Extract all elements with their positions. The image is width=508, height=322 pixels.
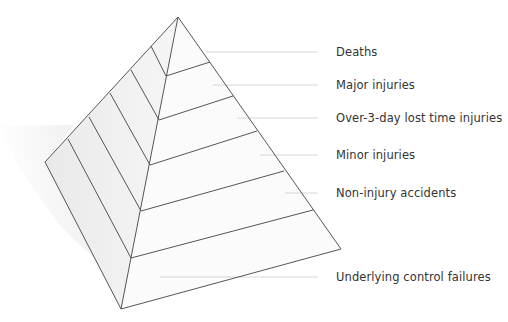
label-non-injury-accidents: Non-injury accidents: [336, 186, 456, 200]
label-over-3-day-lost-time-injuries: Over-3-day lost time injuries: [336, 111, 502, 125]
label-major-injuries: Major injuries: [336, 78, 415, 92]
label-underlying-control-failures: Underlying control failures: [336, 270, 491, 284]
label-minor-injuries: Minor injuries: [336, 148, 415, 162]
label-deaths: Deaths: [336, 45, 377, 59]
